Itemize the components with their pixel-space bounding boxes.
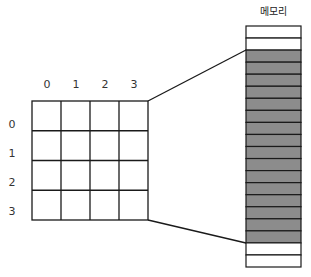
memory-cell: [246, 74, 301, 86]
column-labels: 0 1 2 3: [44, 78, 138, 91]
memory-cell: [246, 255, 301, 267]
memory-cell: [246, 62, 301, 74]
mapping-line-top: [148, 50, 246, 101]
row-labels: 0 1 2 3: [9, 118, 16, 218]
memory-cell: [246, 207, 301, 219]
column-label: 0: [44, 78, 51, 91]
array-grid: [32, 101, 148, 220]
memory-cell: [246, 183, 301, 195]
memory-column: [246, 26, 301, 267]
mapping-line-bottom: [148, 220, 246, 243]
memory-cell: [246, 98, 301, 110]
array-memory-diagram: 메모리 0 1 2 3 0 1 2 3: [0, 0, 311, 277]
memory-cell: [246, 219, 301, 231]
column-label: 2: [102, 78, 109, 91]
row-label: 3: [9, 205, 16, 218]
memory-cell: [246, 86, 301, 98]
memory-cell: [246, 243, 301, 255]
memory-label: 메모리: [260, 6, 287, 17]
memory-cell: [246, 171, 301, 183]
memory-cell: [246, 50, 301, 62]
memory-cell: [246, 38, 301, 50]
row-label: 2: [9, 176, 16, 189]
memory-cell: [246, 159, 301, 171]
memory-cell: [246, 134, 301, 146]
memory-cell: [246, 110, 301, 122]
memory-cell: [246, 122, 301, 134]
memory-cell: [246, 147, 301, 159]
memory-cell: [246, 26, 301, 38]
memory-cell: [246, 231, 301, 243]
memory-cell: [246, 195, 301, 207]
row-label: 1: [9, 147, 16, 160]
column-label: 3: [131, 78, 138, 91]
column-label: 1: [73, 78, 80, 91]
row-label: 0: [9, 118, 16, 131]
